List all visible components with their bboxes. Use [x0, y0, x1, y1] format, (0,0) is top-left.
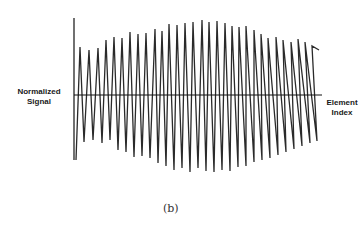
x-axis-label: Element Index	[322, 98, 361, 118]
signal-line	[76, 20, 319, 172]
figure-caption: (b)	[163, 202, 179, 215]
y-axis-label: Normalized Signal	[10, 87, 68, 107]
signal-waveform	[76, 20, 319, 172]
y-axis-label-line1: Normalized	[10, 87, 68, 97]
x-axis-label-line1: Element	[322, 98, 361, 108]
x-axis-label-line2: Index	[322, 108, 361, 118]
y-axis-label-line2: Signal	[10, 97, 68, 107]
signal-plot	[0, 0, 361, 232]
